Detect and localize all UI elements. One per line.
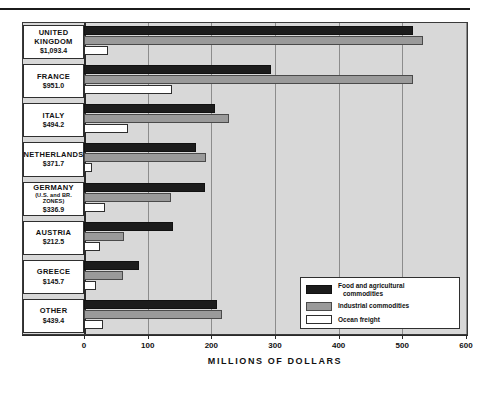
tick-mark-400 [339, 335, 340, 339]
bar-food-3 [84, 143, 196, 152]
bar-food-0 [84, 26, 413, 35]
category-total-value: $439.4 [43, 317, 64, 325]
bar-ind-3 [84, 153, 206, 162]
category-total-value: $1,093.4 [40, 47, 67, 55]
category-label-column: UNITEDKINGDOM$1,093.4FRANCE$951.0ITALY$4… [23, 23, 84, 371]
category-total-value: $951.0 [43, 82, 64, 90]
legend-label-food-line1: Food and agricultural [338, 282, 404, 289]
tick-label-600: 600 [459, 341, 472, 350]
footer-text-fragment [14, 381, 234, 388]
bar-freight-1 [84, 85, 172, 94]
category-name-line2: KINGDOM [34, 38, 72, 46]
bar-ind-1 [84, 75, 413, 84]
category-name: FRANCE [37, 73, 70, 81]
category-label-italy: ITALY$494.2 [23, 103, 84, 137]
category-label-greece: GREECE$145.7 [23, 260, 84, 294]
bar-ind-7 [84, 310, 222, 319]
bar-freight-2 [84, 124, 128, 133]
legend-swatch-food-icon [306, 285, 332, 294]
legend-label-food: Food and agricultural commodities [338, 282, 404, 297]
tick-label-400: 400 [332, 341, 345, 350]
bar-food-1 [84, 65, 271, 74]
tick-mark-500 [402, 335, 403, 339]
category-label-united: UNITEDKINGDOM$1,093.4 [23, 25, 84, 59]
bar-food-6 [84, 261, 139, 270]
bar-freight-3 [84, 163, 92, 172]
category-total-value: $212.5 [43, 238, 64, 246]
category-label-austria: AUSTRIA$212.5 [23, 221, 84, 255]
legend-label-industrial: Industrial commodities [338, 302, 409, 310]
bar-ind-5 [84, 232, 124, 241]
category-name: OTHER [40, 307, 68, 315]
x-axis-title: MILLIONS OF DOLLARS [84, 356, 466, 366]
legend-label-freight: Ocean freight [338, 316, 380, 324]
category-label-germany: GERMANY(U.S. and BR. ZONES)$336.9 [23, 182, 84, 216]
x-axis-line [22, 335, 468, 336]
category-total-value: $336.9 [43, 206, 64, 214]
tick-label-100: 100 [141, 341, 154, 350]
category-name: ITALY [43, 112, 65, 120]
category-total-value: $371.7 [43, 160, 64, 168]
bar-ind-0 [84, 36, 423, 45]
chart-legend: Food and agricultural commodities Indust… [300, 277, 460, 329]
bar-food-4 [84, 183, 205, 192]
tick-mark-600 [466, 335, 467, 339]
tick-mark-300 [275, 335, 276, 339]
legend-item-freight: Ocean freight [306, 315, 454, 324]
bar-ind-4 [84, 193, 171, 202]
bar-ind-6 [84, 271, 123, 280]
tick-label-200: 200 [205, 341, 218, 350]
tick-label-500: 500 [396, 341, 409, 350]
category-label-other: OTHER$439.4 [23, 299, 84, 333]
legend-item-industrial: Industrial commodities [306, 302, 454, 311]
top-rule [0, 8, 470, 10]
tick-mark-100 [148, 335, 149, 339]
bar-freight-4 [84, 203, 105, 212]
category-sublabel: (U.S. and BR. ZONES) [24, 192, 83, 205]
bar-freight-0 [84, 46, 108, 55]
tick-label-0: 0 [82, 341, 86, 350]
bar-ind-2 [84, 114, 229, 123]
chart-figure: UNITEDKINGDOM$1,093.4FRANCE$951.0ITALY$4… [0, 0, 487, 394]
bar-freight-7 [84, 320, 103, 329]
category-name: GERMANY [33, 184, 73, 192]
category-total-value: $494.2 [43, 121, 64, 129]
category-name: AUSTRIA [36, 229, 71, 237]
category-name: NETHERLANDS [24, 151, 84, 159]
legend-item-food: Food and agricultural commodities [306, 282, 454, 297]
bar-freight-6 [84, 281, 96, 290]
tick-mark-0 [84, 335, 85, 339]
legend-swatch-industrial-icon [306, 302, 332, 311]
category-label-france: FRANCE$951.0 [23, 64, 84, 98]
category-name: GREECE [37, 268, 70, 276]
legend-swatch-freight-icon [306, 315, 332, 324]
tick-label-300: 300 [268, 341, 281, 350]
category-label-netherlands: NETHERLANDS$371.7 [23, 142, 84, 176]
bar-food-7 [84, 300, 217, 309]
bar-freight-5 [84, 242, 100, 251]
bar-food-5 [84, 222, 173, 231]
category-total-value: $145.7 [43, 278, 64, 286]
tick-mark-200 [211, 335, 212, 339]
legend-label-food-line2: commodities [338, 290, 383, 297]
bar-food-2 [84, 104, 215, 113]
